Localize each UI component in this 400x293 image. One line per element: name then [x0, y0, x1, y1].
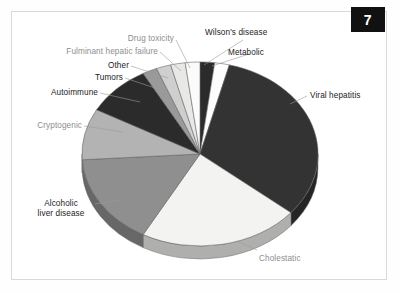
slice-label-wilsons-disease: Wilson's disease	[205, 28, 267, 38]
slice-label-tumors: Tumors	[62, 73, 123, 83]
slice-label-drug-toxicity: Drug toxicity	[96, 34, 174, 44]
figure-number-badge: 7	[351, 7, 385, 32]
slice-label-other: Other	[69, 61, 129, 71]
figure-panel: 7	[0, 0, 400, 293]
slice-label-cholestatic: Cholestatic	[259, 254, 301, 264]
slice-label-viral-hepatitis: Viral hepatitis	[310, 91, 361, 101]
slice-label-autoimmune: Autoimmune	[30, 88, 98, 98]
slice-label-cryptogenic: Cryptogenic	[22, 121, 82, 131]
label-leader-lines	[0, 0, 400, 293]
slice-label-fulminant-hepatic-failure: Fulminant hepatic failure	[38, 47, 158, 57]
slice-label-metabolic: Metabolic	[228, 48, 264, 58]
pie-chart: Viral hepatitis Cholestatic Alcoholic li…	[0, 0, 400, 293]
slice-label-alcoholic-liver-disease-line1: Alcoholic	[28, 199, 94, 209]
slice-label-alcoholic-liver-disease-line2: liver disease	[28, 209, 94, 219]
